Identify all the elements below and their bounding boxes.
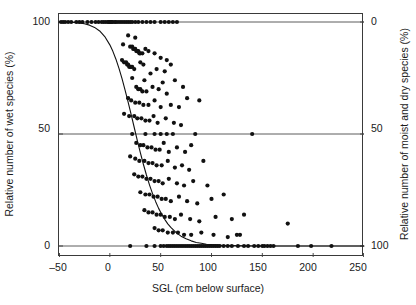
gridlines-group (59, 22, 364, 246)
y-axis-title-left: Relative number of wet species (%) (4, 51, 15, 216)
x-axis-tick-0: 0 (105, 262, 111, 273)
x-axis-title: SGL (cm below surface) (152, 283, 264, 294)
y-axis-left-tick-50: 50 (18, 123, 50, 134)
x-axis-tick--50: –50 (49, 262, 67, 273)
y-axis-left-tick-0: 0 (18, 240, 50, 251)
x-axis-tick-250: 250 (349, 262, 367, 273)
y-axis-right-tick-100: 100 (371, 240, 389, 251)
plot-svg (59, 14, 364, 257)
plot-area (58, 13, 363, 256)
x-axis-tick-50: 50 (152, 262, 164, 273)
y-axis-left-tick-100: 100 (18, 16, 50, 27)
y-axis-title-right: Relative number of moist and dry species… (399, 28, 410, 240)
y-axis-right-tick-0: 0 (371, 16, 377, 27)
x-axis-tick-100: 100 (199, 262, 217, 273)
x-axis-tick-200: 200 (299, 262, 317, 273)
x-axis-tick-150: 150 (249, 262, 267, 273)
y-axis-right-tick-50: 50 (371, 123, 383, 134)
x-tick-marks-group (60, 253, 364, 257)
figure-container: 100 50 0 0 50 100 –50 0 50 100 150 200 2… (0, 0, 416, 305)
